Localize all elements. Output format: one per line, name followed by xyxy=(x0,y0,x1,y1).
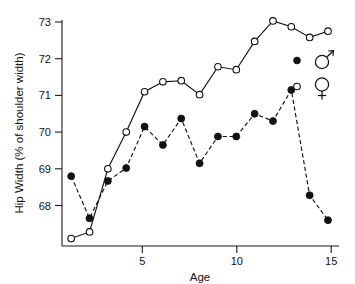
hip-width-vs-age-line-chart: 73 72 71 70 69 68 5 10 15 Hip Width (% o… xyxy=(0,0,355,284)
chart-background xyxy=(0,0,355,284)
data-point-female-age-10 xyxy=(233,66,240,73)
data-point-female-age-11 xyxy=(251,38,258,45)
data-point-male-age-7 xyxy=(178,115,185,122)
data-point-female-age-14 xyxy=(306,34,313,41)
data-point-female-age-15 xyxy=(325,28,332,35)
data-point-female-age-4 xyxy=(123,129,130,136)
data-point-female-age-1 xyxy=(68,235,75,242)
data-point-female-age-6 xyxy=(160,79,167,86)
chart-figure: 73 72 71 70 69 68 5 10 15 Hip Width (% o… xyxy=(0,0,355,284)
y-axis-title: Hip Width (% of shoulder width) xyxy=(13,52,25,213)
data-point-male-age-4 xyxy=(123,165,130,172)
y-tick-label-72: 72 xyxy=(39,53,51,65)
data-point-male-age-14 xyxy=(306,192,313,199)
data-point-male-age-15 xyxy=(324,217,331,224)
data-point-male-age-2 xyxy=(86,215,93,222)
x-tick-label-5: 5 xyxy=(139,255,145,267)
data-point-female-age-7 xyxy=(178,77,185,84)
data-point-male-age-12 xyxy=(269,118,276,125)
data-point-female-age-9 xyxy=(215,63,222,70)
data-point-female-age-5 xyxy=(141,88,148,95)
data-point-female-age-12 xyxy=(270,18,277,25)
data-point-male-age-10 xyxy=(233,133,240,140)
data-point-female-age-2 xyxy=(86,229,93,236)
data-point-male-age-5 xyxy=(141,123,148,130)
y-tick-label-73: 73 xyxy=(39,16,51,28)
data-point-male-age-8 xyxy=(196,160,203,167)
data-point-male-age-6 xyxy=(159,141,166,148)
data-point-male-age-9 xyxy=(214,133,221,140)
data-point-female-age-8 xyxy=(196,91,203,98)
x-axis-title: Age xyxy=(190,271,210,283)
data-point-female-age-13 xyxy=(288,23,295,30)
data-point-female-age-3 xyxy=(105,166,112,173)
y-tick-label-71: 71 xyxy=(39,89,51,101)
legend-marker-open-circle xyxy=(294,83,301,90)
data-point-male-age-11 xyxy=(251,110,258,117)
x-tick-label-15: 15 xyxy=(325,255,337,267)
y-tick-label-70: 70 xyxy=(39,126,51,138)
x-tick-label-10: 10 xyxy=(231,255,243,267)
y-tick-label-68: 68 xyxy=(39,200,51,212)
data-point-male-age-1 xyxy=(68,173,75,180)
y-tick-label-69: 69 xyxy=(39,163,51,175)
legend-marker-filled-circle xyxy=(294,57,301,64)
